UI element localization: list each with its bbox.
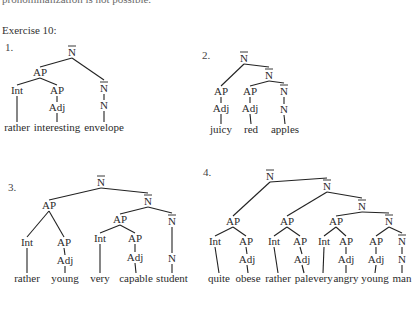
tree-node-ap: AP [50, 84, 64, 96]
tree-word: envelope [84, 121, 124, 133]
tree-node-adj: Adj [294, 253, 311, 265]
tree-word: obese [235, 272, 260, 284]
tree-word: apples [271, 123, 299, 135]
n-bar-node: N [265, 69, 273, 81]
tree-branch [215, 247, 219, 273]
tree-node-ap: AP [243, 85, 257, 97]
n-bar-node: N [398, 235, 406, 247]
syntax-trees-figure: NAPIntAPAdjNNratherinterestingenvelopeNA… [0, 0, 416, 313]
tree-word: pale [295, 272, 313, 284]
tree-word: juicy [209, 123, 232, 135]
tree-word: quite [208, 272, 230, 284]
tree-node-adj: Adj [242, 102, 259, 114]
tree-branch [274, 247, 278, 273]
tree-node-int: Int [268, 235, 280, 247]
n-bar-node: N [144, 195, 152, 207]
tree-node-ap: AP [293, 235, 307, 247]
tree-branch [27, 211, 49, 237]
tree-word: rather [4, 121, 30, 133]
tree-node-ap: AP [329, 215, 343, 227]
n-bar-node: N [266, 170, 274, 182]
tree-node-adj: Adj [368, 253, 385, 265]
tree-branch [233, 182, 270, 216]
tree-word: angry [333, 272, 359, 284]
tree-word: interesting [34, 121, 81, 133]
tree-branch [49, 211, 64, 237]
n-bar-node: N [97, 176, 105, 188]
tree-node-ap: AP [128, 232, 142, 244]
tree-branch [389, 227, 402, 233]
tree-node-adj: Adj [57, 254, 74, 266]
tree-node-ap: AP [280, 215, 294, 227]
tree-word: young [51, 272, 79, 284]
tree-branch [148, 207, 172, 213]
tree-node-ap: AP [57, 236, 71, 248]
n-bar-node: N [358, 200, 366, 212]
tree-word: young [361, 272, 389, 284]
tree-node-n: N [398, 253, 406, 265]
tree-branch [269, 81, 284, 83]
tree-word: very [90, 272, 110, 284]
syntax-tree-3: NAPIntAPAdjNAPIntAPAdjNNratheryoungveryc… [14, 176, 188, 284]
tree-node-n: N [168, 252, 176, 264]
syntax-tree-1: NAPIntAPAdjNNratherinterestingenvelope [4, 46, 124, 133]
tree-node-ap: AP [369, 235, 383, 247]
tree-word: very [313, 272, 333, 284]
tree-node-int: Int [94, 232, 106, 244]
n-bar-node: N [323, 180, 331, 192]
tree-node-ap: AP [226, 215, 240, 227]
tree-node-int: Int [209, 235, 221, 247]
tree-word: rather [14, 272, 40, 284]
tree-node-ap: AP [113, 213, 127, 225]
n-bar-node: N [168, 215, 176, 227]
tree-branch [287, 192, 327, 216]
tree-node-adj: Adj [213, 102, 230, 114]
tree-word: student [156, 272, 188, 284]
tree-node-ap: AP [33, 66, 47, 78]
n-bar-node: N [280, 85, 288, 97]
tree-word: red [244, 123, 259, 135]
tree-node-int: Int [21, 236, 33, 248]
tree-node-ap: AP [42, 199, 56, 211]
tree-word: rather [265, 272, 291, 284]
tree-node-int: Int [11, 84, 23, 96]
syntax-tree-2: NAPAdjNAPAdjNNjuicyredapples [209, 52, 299, 135]
tree-branch [270, 178, 327, 182]
tree-node-n: N [100, 99, 108, 111]
tree-node-adj: Adj [338, 253, 355, 265]
tree-node-adj: Adj [127, 251, 144, 263]
n-bar-node: N [240, 52, 248, 64]
tree-branch [323, 247, 324, 273]
tree-node-ap: AP [339, 235, 353, 247]
tree-branch [221, 64, 244, 86]
tree-node-n: N [280, 103, 288, 115]
tree-word: man [393, 272, 412, 284]
tree-branch [101, 188, 148, 193]
tree-node-adj: Adj [49, 101, 66, 113]
tree-node-ap: AP [239, 235, 253, 247]
tree-branch [72, 58, 104, 80]
syntax-tree-4: NAPIntAPAdjNAPIntAPAdjNAPIntAPAdjNAPAdjN… [208, 170, 412, 284]
tree-branch [327, 192, 362, 198]
tree-branch [49, 188, 101, 200]
n-bar-node: N [385, 215, 393, 227]
tree-branch [362, 212, 389, 213]
tree-node-ap: AP [214, 85, 228, 97]
tree-word: capable [119, 272, 153, 284]
n-bar-node: N [68, 46, 76, 58]
tree-node-int: Int [318, 235, 330, 247]
tree-node-adj: Adj [239, 253, 256, 265]
n-bar-node: N [100, 82, 108, 94]
tree-branch [244, 64, 269, 67]
